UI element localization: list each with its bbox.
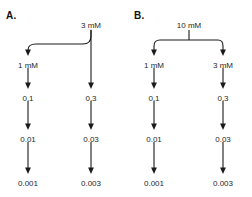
node-b-right-4: 0.003 — [213, 180, 233, 188]
bracket-b — [154, 40, 223, 52]
arrow-head-a-left-1 — [25, 83, 31, 90]
arrow-head-a-left-2 — [25, 124, 31, 131]
arrow-head-b-left-3 — [151, 168, 157, 175]
node-a-left-1: 1 mM — [18, 62, 38, 70]
node-b-source: 10 mM — [177, 22, 201, 30]
arrow-head-b-left-1 — [151, 83, 157, 90]
node-a-left-4: 0.001 — [18, 180, 38, 188]
node-b-right-1: 3 mM — [213, 62, 233, 70]
branch-curve-a — [28, 30, 91, 52]
panel-b: B. 10 mM — [126, 0, 252, 197]
node-a-right-1: 0.3 — [85, 95, 96, 103]
arrow-head-b-right-2 — [220, 124, 226, 131]
node-b-left-4: 0.001 — [144, 180, 164, 188]
panel-a: A. 3 mM 1 mM 0 — [0, 0, 126, 197]
node-b-left-3: 0.01 — [146, 136, 162, 144]
arrow-head-a-right-1 — [88, 83, 94, 90]
node-a-left-3: 0.01 — [20, 136, 36, 144]
arrow-head-a-branch — [25, 50, 31, 57]
arrow-head-b-branch-left — [151, 50, 157, 57]
node-a-right-2: 0.03 — [83, 136, 99, 144]
node-a-source: 3 mM — [81, 22, 101, 30]
panel-a-connectors — [0, 0, 126, 197]
node-b-right-2: 0.3 — [217, 95, 228, 103]
node-b-left-1: 1 mM — [144, 62, 164, 70]
arrow-head-b-left-2 — [151, 124, 157, 131]
dilution-series-figure: A. 3 mM 1 mM 0 — [0, 0, 252, 197]
arrow-head-a-right-2 — [88, 124, 94, 131]
node-a-left-2: 0.1 — [22, 95, 33, 103]
node-a-right-3: 0.003 — [81, 180, 101, 188]
node-b-right-3: 0.03 — [215, 136, 231, 144]
arrow-head-a-left-3 — [25, 168, 31, 175]
arrow-head-b-right-3 — [220, 168, 226, 175]
node-b-left-2: 0.1 — [148, 95, 159, 103]
arrow-head-b-branch-right — [220, 50, 226, 57]
arrow-head-a-right-3 — [88, 168, 94, 175]
arrow-head-b-right-1 — [220, 83, 226, 90]
